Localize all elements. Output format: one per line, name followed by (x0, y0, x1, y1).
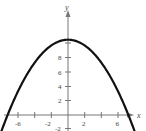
y-tick-label: 8 (58, 54, 62, 62)
y-tick-label: 4 (58, 83, 62, 91)
y-tick-label: 2 (58, 97, 62, 105)
x-tick-label: -6 (15, 120, 21, 128)
y-axis-label: y (64, 3, 69, 12)
x-axis-label: x (136, 111, 141, 120)
x-tick-label: -2 (45, 120, 51, 128)
x-tick-label: 6 (116, 120, 120, 128)
y-tick-label: -2 (55, 125, 61, 131)
y-tick-label: 6 (58, 69, 62, 77)
parabola-chart: x y -6 -2 2 6 -2 2 4 6 8 (0, 0, 146, 131)
x-tick-label: 2 (82, 120, 86, 128)
